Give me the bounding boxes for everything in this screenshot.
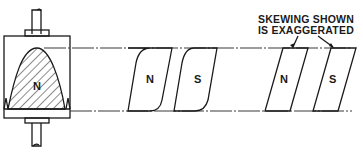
arrowhead-2-icon [329, 43, 334, 48]
rotor-assembly: N [4, 9, 70, 146]
rotor-pole-label: N [33, 80, 41, 92]
middle-pole-n-label: N [146, 73, 154, 85]
right-pole-s-label: S [329, 73, 336, 85]
rotor-pole [8, 48, 65, 109]
middle-poles: N S [128, 48, 217, 111]
skewing-annotation: SKEWING SHOWN IS EXAGGERATED [258, 13, 354, 48]
top-collar [25, 30, 49, 36]
right-pole-n-label: N [280, 73, 288, 85]
bottom-shaft [32, 123, 41, 146]
right-poles: N S [265, 48, 356, 111]
bottom-collar [25, 118, 49, 123]
middle-pole-s-label: S [194, 73, 201, 85]
skewed-pole-diagram: N N S N S SKEWING SHOWN IS EXAGGERATED [0, 0, 363, 153]
annotation-line-2: IS EXAGGERATED [258, 24, 354, 36]
